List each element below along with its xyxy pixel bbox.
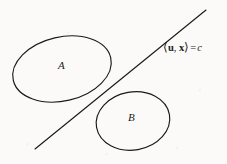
separating-hyperplane-figure: A B ⟨u, x⟩=c — [0, 0, 227, 164]
set-b-label: B — [128, 112, 135, 123]
constant-c-symbol: c — [197, 42, 202, 53]
hyperplane-equation-label: ⟨u, x⟩=c — [163, 42, 202, 54]
equals-sign: = — [190, 42, 196, 53]
angle-bracket-close-icon: ⟩ — [184, 41, 189, 53]
geometry-group — [6, 10, 206, 156]
separating-line — [35, 10, 206, 149]
equation-comma: , — [174, 42, 177, 53]
set-a-label: A — [58, 60, 65, 71]
figure-canvas — [0, 0, 227, 164]
